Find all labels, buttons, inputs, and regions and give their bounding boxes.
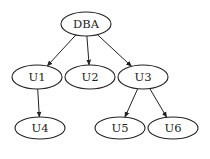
- edge-u1-to-u4: [38, 89, 40, 117]
- tree-diagram: DBAU1U2U3U4U5U6: [0, 0, 210, 159]
- node-label: U1: [28, 70, 45, 84]
- node-label: U4: [31, 121, 48, 135]
- node-u1: U1: [12, 65, 62, 89]
- node-label: U6: [164, 121, 181, 135]
- node-u4: U4: [15, 117, 65, 139]
- edge-dba-to-u2: [87, 36, 89, 65]
- edge-u3-to-u6: [150, 89, 167, 118]
- node-u3: U3: [118, 65, 168, 89]
- node-label: U2: [81, 70, 98, 84]
- edge-dba-to-u1: [47, 35, 76, 66]
- node-label: U5: [111, 121, 128, 135]
- edge-u3-to-u5: [125, 89, 138, 117]
- nodes: DBAU1U2U3U4U5U6: [12, 12, 198, 139]
- node-u2: U2: [65, 65, 115, 89]
- node-u5: U5: [95, 117, 145, 139]
- node-label: DBA: [73, 17, 100, 31]
- node-dba: DBA: [61, 12, 111, 36]
- edge-dba-to-u3: [97, 35, 131, 67]
- node-u6: U6: [148, 117, 198, 139]
- node-label: U3: [134, 70, 151, 84]
